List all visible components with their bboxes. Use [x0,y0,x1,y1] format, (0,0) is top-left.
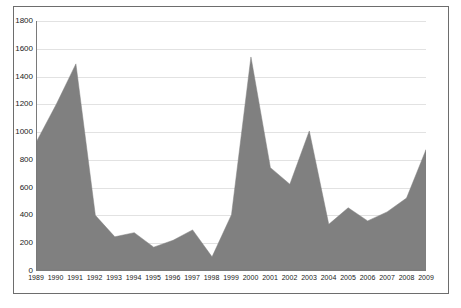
x-tick-label: 1996 [165,274,181,281]
y-tick-label: 800 [20,156,33,164]
area-chart-figure: 020040060080010001200140016001800 198919… [0,0,461,308]
x-tick-label: 1990 [48,274,64,281]
x-tick-label: 1998 [204,274,220,281]
x-tick-label: 2009 [418,274,434,281]
x-tick-label: 2007 [379,274,395,281]
x-axis-tick-labels: 1989199019911992199319941995199619971998… [36,274,426,288]
x-tick-label: 2001 [262,274,278,281]
x-tick-label: 1995 [145,274,161,281]
x-tick-label: 1993 [106,274,122,281]
x-tick-label: 1992 [87,274,103,281]
y-axis: 020040060080010001200140016001800 [13,21,33,271]
x-tick-label: 2000 [243,274,259,281]
x-tick-label: 1994 [126,274,142,281]
y-tick-label: 1400 [15,73,33,81]
x-tick-label: 2003 [301,274,317,281]
y-tick-label: 1000 [15,128,33,136]
x-tick-label: 2002 [282,274,298,281]
y-tick-label: 200 [20,239,33,247]
x-tick-label: 2006 [360,274,376,281]
plot-area [36,21,426,271]
x-tick-label: 2008 [399,274,415,281]
x-tick-label: 1997 [184,274,200,281]
y-tick-label: 1600 [15,45,33,53]
y-tick-label: 1200 [15,100,33,108]
y-tick-label: 600 [20,184,33,192]
y-tick-label: 400 [20,211,33,219]
x-tick-label: 1999 [223,274,239,281]
x-tick-label: 2005 [340,274,356,281]
x-tick-label: 1989 [28,274,44,281]
x-tick-label: 1991 [67,274,83,281]
x-tick-label: 2004 [321,274,337,281]
area-series-path [37,21,426,270]
y-axis-tick-labels: 020040060080010001200140016001800 [13,21,33,271]
